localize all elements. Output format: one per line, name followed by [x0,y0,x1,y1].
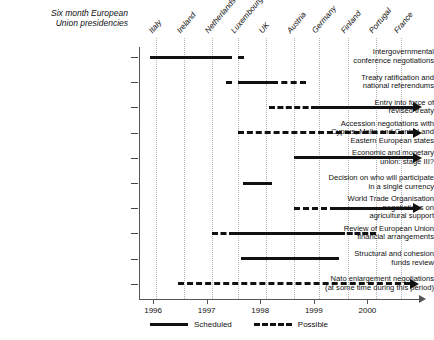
x-tick-label-2000: 2000 [347,306,387,315]
gantt-chart: Six month European Union presidencies It… [0,0,434,340]
row-tick-1 [131,82,138,83]
bar-segment-possible [339,232,376,235]
bar-arrow-icon [410,279,419,289]
bar-segment-scheduled [336,207,412,210]
row-tick-0 [131,57,138,58]
presidency-label-ireland: Ireland [175,10,198,35]
x-tick-label-1998: 1998 [240,306,280,315]
x-axis [139,299,421,300]
bar-segment-possible [226,81,244,84]
x-tick-1996 [153,299,154,304]
gridline-0 [156,38,157,299]
header-title-line-1: Six month European [8,8,128,18]
gridline-1 [184,38,185,299]
legend-item-possible: Possible [254,320,328,329]
x-tick-2000 [367,299,368,304]
header-title-line-2: Union presidencies [8,18,128,28]
row-label-line: Eastern European states [294,137,434,146]
bar-segment-possible [212,232,235,235]
x-tick-1999 [314,299,315,304]
x-tick-1997 [207,299,208,304]
x-tick-1998 [260,299,261,304]
presidency-label-germany: Germany [311,4,339,35]
row-tick-9 [131,284,138,285]
row-label-0: Intergovernmentalconference negotiations [294,48,434,65]
row-label-line: conference negotiations [294,57,434,66]
legend-label-scheduled: Scheduled [194,320,232,329]
bar-arrow-icon [413,203,422,213]
y-axis [139,47,140,300]
bar-segment-scheduled [317,106,413,109]
row-tick-7 [131,233,138,234]
bar-segment-scheduled [150,56,226,59]
scheduled-line-icon [150,323,188,326]
bar-segment-possible [272,81,307,84]
bar-segment-possible [238,131,413,134]
row-label-1: Treaty ratification andnational referend… [294,74,434,91]
row-tick-8 [131,259,138,260]
row-label-line: agricultural support [294,212,434,221]
presidency-label-portugal: Portugal [367,6,393,35]
legend-label-possible: Possible [298,320,328,329]
legend: Scheduled Possible [150,320,350,329]
bar-segment-possible [294,207,336,210]
bar-segment-scheduled [244,81,271,84]
row-label-line: in a single currency [294,183,434,192]
x-tick-label-1997: 1997 [187,306,227,315]
presidency-label-uk: UK [257,21,271,35]
presidency-label-france: France [392,10,415,35]
presidency-label-austria: Austria [285,10,308,35]
chart-header-title: Six month European Union presidencies [8,8,128,28]
row-tick-2 [131,107,138,108]
bar-segment-scheduled [243,182,271,185]
x-axis-arrow-icon [419,295,426,303]
row-tick-4 [131,158,138,159]
bar-segment-scheduled [241,257,340,260]
row-label-line: national referendums [294,82,434,91]
row-label-5: Decision on who will participatein a sin… [294,174,434,191]
row-tick-5 [131,183,138,184]
presidency-label-finland: Finland [339,9,363,35]
x-tick-label-1996: 1996 [133,306,173,315]
gridline-2 [212,38,213,299]
x-tick-label-1999: 1999 [294,306,334,315]
gridline-3 [238,38,239,299]
presidency-label-italy: Italy [147,18,163,35]
bar-segment-scheduled [235,232,339,235]
bar-segment-possible [269,106,317,109]
legend-item-scheduled: Scheduled [150,320,232,329]
possible-line-icon [254,323,292,326]
bar-arrow-icon [413,153,422,163]
bar-segment-scheduled [294,156,412,159]
bar-arrow-icon [413,102,422,112]
row-tick-3 [131,133,138,134]
row-tick-6 [131,208,138,209]
bar-arrow-icon [413,128,422,138]
bar-segment-possible [226,56,244,59]
bar-segment-possible [178,282,409,285]
